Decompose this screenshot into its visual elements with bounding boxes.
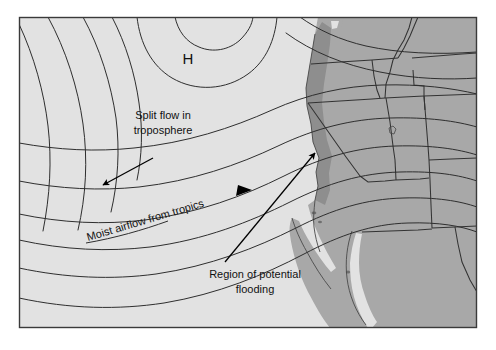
- flooding-label-line1: Region of potential: [209, 268, 301, 280]
- split-flow-label-line2: troposphere: [134, 124, 193, 136]
- diagram-canvas: H Split flow in troposphere Moist airflo…: [0, 0, 496, 350]
- flooding-label-line2: flooding: [236, 283, 275, 295]
- channel-island-b: [318, 221, 322, 223]
- high-pressure-label: H: [183, 50, 194, 67]
- split-flow-label-line1: Split flow in: [135, 109, 191, 121]
- weather-diagram: H Split flow in troposphere Moist airflo…: [0, 0, 496, 350]
